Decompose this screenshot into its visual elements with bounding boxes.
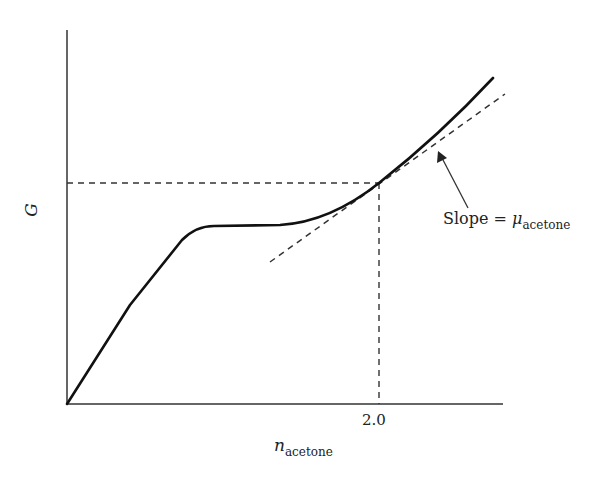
x-axis-label: nacetone: [274, 435, 333, 455]
y-axis-label: G: [21, 203, 41, 217]
annotation-arrow-shaft: [442, 158, 468, 208]
x-axis-label-main: n: [274, 435, 285, 455]
slope-annotation-prefix: Slope =: [443, 209, 512, 228]
slope-annotation-mu: μ: [512, 209, 522, 228]
slope-annotation-subscript: acetone: [522, 218, 570, 232]
slope-annotation: Slope = μacetone: [443, 209, 570, 228]
chart-canvas: [0, 0, 608, 477]
x-tick-label-2: 2.0: [362, 411, 386, 429]
x-axis-label-subscript: acetone: [285, 445, 333, 459]
annotation-arrow-head: [437, 151, 447, 163]
g-curve: [67, 78, 493, 404]
tangent-line: [270, 94, 505, 262]
